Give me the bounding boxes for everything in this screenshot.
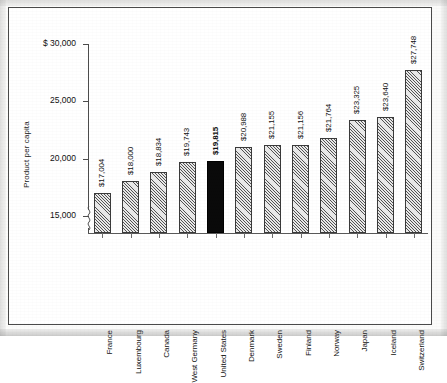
y-axis-tick-mark	[83, 216, 89, 217]
x-axis-category-label[interactable]: West Germany	[190, 330, 199, 383]
x-axis-tick-mark	[131, 233, 132, 238]
bar-series: $17,004$18,000$18,834$19,743$19,815$20,9…	[88, 44, 428, 233]
bar[interactable]	[377, 117, 394, 233]
bar-value-label: $23,640	[381, 83, 390, 111]
bar-slot: $21,764	[320, 44, 337, 233]
bar[interactable]	[292, 145, 309, 233]
bar[interactable]	[235, 147, 252, 233]
bar-slot: $23,640	[377, 44, 394, 233]
bar-slot: $23,325	[349, 44, 366, 233]
x-axis-baseline	[88, 233, 428, 234]
bar-slot: $18,834	[150, 44, 167, 233]
y-axis-tick-label: 20,000	[14, 153, 76, 163]
bar[interactable]	[349, 120, 366, 233]
x-axis-category-labels: FranceLuxembourgCanadaWest GermanyUnited…	[88, 240, 428, 332]
x-axis-tick-mark	[102, 233, 103, 238]
bar-value-label: $21,155	[267, 111, 276, 139]
y-axis-tick-mark	[83, 44, 89, 45]
bar-slot: $27,748	[405, 44, 422, 233]
x-axis-tick-mark	[244, 233, 245, 238]
x-axis-tick-mark	[159, 233, 160, 238]
bar-value-label: $19,743	[182, 127, 191, 155]
bar-value-label: $27,748	[409, 36, 418, 64]
bar[interactable]	[207, 161, 224, 233]
x-axis-category-label[interactable]: Luxembourg	[134, 330, 143, 374]
x-axis-category-label[interactable]: United States	[219, 330, 228, 377]
bar-slot: $19,815	[207, 44, 224, 233]
x-axis-tick-mark	[187, 233, 188, 238]
bar-value-label: $18,834	[154, 138, 163, 166]
y-axis-tick-mark	[83, 101, 89, 102]
x-axis-tick-mark	[301, 233, 302, 238]
x-axis-category-label[interactable]: Switzerland	[417, 330, 426, 371]
x-axis-tick-mark	[329, 233, 330, 238]
y-axis-tick-label: 15,000	[14, 210, 76, 220]
bar-value-label: $23,325	[352, 86, 361, 114]
bar-slot: $18,000	[122, 44, 139, 233]
x-axis-tick-mark	[386, 233, 387, 238]
bar-slot: $19,743	[179, 44, 196, 233]
bar[interactable]	[179, 162, 196, 234]
bar-value-label: $17,004	[97, 159, 106, 187]
x-axis-tick-mark	[414, 233, 415, 238]
y-axis-tick-label: $ 30,000	[14, 38, 76, 48]
bar-slot: $20,988	[235, 44, 252, 233]
y-axis-tick-label: 25,000	[14, 95, 76, 105]
bar[interactable]	[264, 145, 281, 233]
bar-value-label: $21,764	[324, 104, 333, 132]
bar-value-label: $20,988	[239, 113, 248, 141]
bar-value-label: $21,156	[296, 111, 305, 139]
bar[interactable]	[320, 138, 337, 233]
bar[interactable]	[94, 193, 111, 233]
scan-edge-left	[0, 0, 6, 336]
y-axis-tick-labels: $ 30,00025,00020,00015,000	[14, 0, 76, 336]
bar-slot: $21,155	[264, 44, 281, 233]
bar-slot: $17,004	[94, 44, 111, 233]
bar-value-label: $18,000	[126, 147, 135, 175]
bar[interactable]	[150, 172, 167, 233]
scan-edge-bottom	[0, 329, 447, 336]
bar-slot: $21,156	[292, 44, 309, 233]
x-axis-tick-mark	[357, 233, 358, 238]
bar[interactable]	[122, 181, 139, 233]
x-axis-tick-mark	[272, 233, 273, 238]
bar-value-label: $19,815	[211, 126, 220, 154]
x-axis-tick-mark	[216, 233, 217, 238]
y-axis-tick-mark	[83, 159, 89, 160]
scan-edge-right	[441, 0, 447, 336]
scan-edge-top	[0, 0, 447, 6]
bar[interactable]	[405, 70, 422, 233]
